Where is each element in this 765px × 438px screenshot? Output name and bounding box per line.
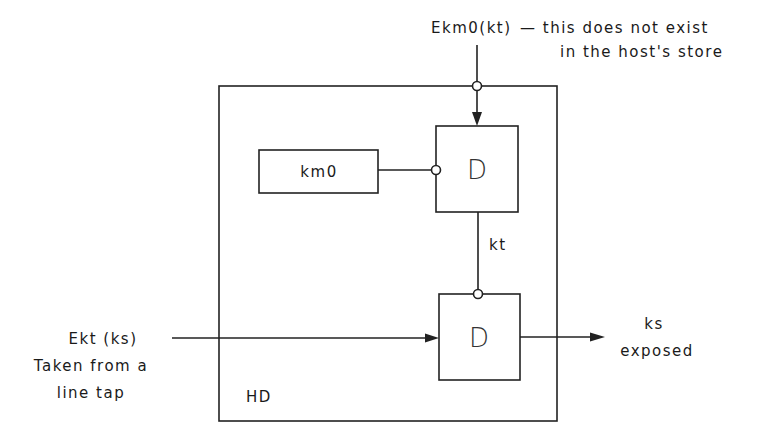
output-label-line1: ks [644, 315, 664, 333]
hd-decryption-diagram: HD Ekm0(kt) — this does not exist in the… [0, 0, 765, 438]
output-arrowhead [590, 333, 605, 342]
left-input-label-line1: Ekt (ks) [68, 330, 137, 348]
km0-label: km0 [300, 163, 337, 181]
kt-label: kt [489, 236, 507, 254]
lower-decrypt-label: D [469, 323, 489, 353]
upper-decrypt-label: D [467, 155, 487, 185]
top-input-label: Ekm0(kt) [431, 19, 512, 37]
kt-key-circle [474, 290, 483, 299]
key-input-circle [432, 166, 441, 175]
top-input-note-line2: in the host's store [560, 43, 723, 61]
left-input-label-line3: line tap [57, 384, 125, 402]
top-input-note-line1: — this does not exist [520, 19, 709, 37]
output-label-line2: exposed [620, 342, 694, 360]
left-input-label-line2: Taken from a [33, 357, 148, 375]
top-input-junction-circle [473, 82, 482, 91]
hd-label: HD [246, 388, 272, 406]
